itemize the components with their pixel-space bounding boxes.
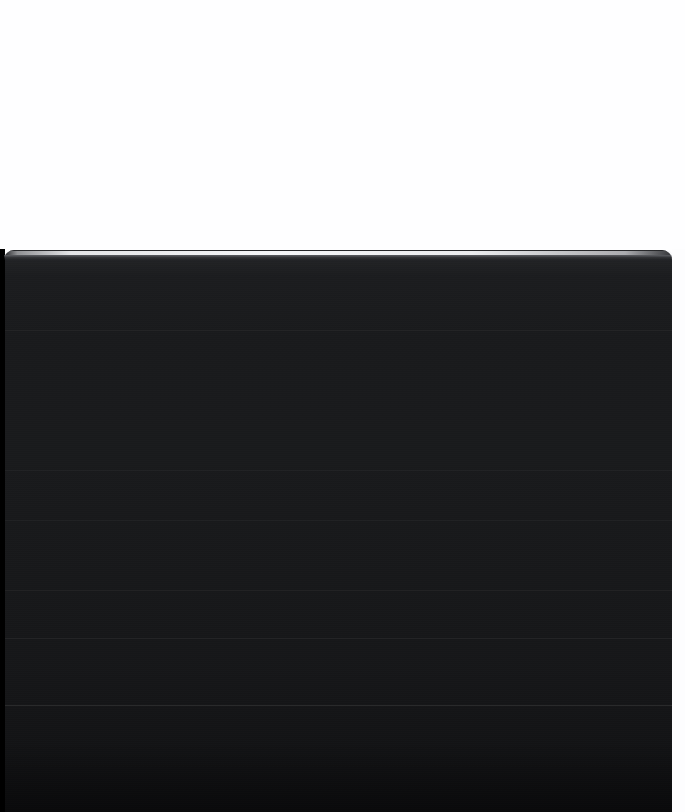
left-gutter-strip bbox=[0, 249, 5, 812]
sheet-body-text bbox=[4, 250, 672, 812]
right-margin-strip bbox=[672, 249, 685, 812]
screen-root bbox=[0, 0, 685, 812]
dark-sheet-panel[interactable] bbox=[4, 250, 672, 812]
